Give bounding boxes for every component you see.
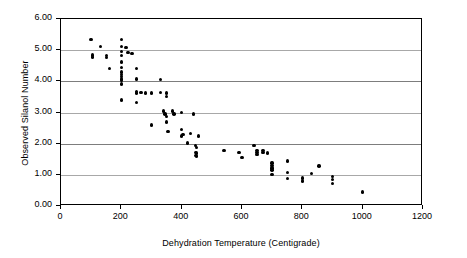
data-point [301,179,304,182]
x-tickmark-600 [241,205,242,209]
y-tick-label-5.00: 5.00 [8,43,52,53]
data-point [135,101,138,104]
x-tick-label-1200: 1200 [397,211,447,221]
data-point [261,151,264,154]
data-point [105,56,108,59]
gridline-y-1 [61,175,421,176]
data-point [180,111,183,114]
x-tick-label-400: 400 [156,211,206,221]
x-tickmark-800 [301,205,302,209]
data-point [222,149,225,152]
gridline-y-5 [61,50,421,51]
data-point [165,95,168,98]
data-point [286,159,289,162]
x-tick-label-800: 800 [276,211,326,221]
data-point [270,168,273,171]
data-point [159,91,162,94]
data-point [120,82,123,85]
data-point [270,173,273,176]
x-tickmark-1000 [362,205,363,209]
data-point [144,91,147,94]
y-tick-label-6.00: 6.00 [8,12,52,22]
gridline-y-3 [61,113,421,114]
data-point [126,51,129,54]
data-point [120,38,123,41]
data-point [135,67,138,70]
data-point [139,91,142,94]
data-point [120,98,123,101]
data-point [181,133,184,136]
data-point [120,50,123,53]
data-point [317,164,320,167]
data-point [89,38,92,41]
data-point [166,130,169,133]
data-point [192,112,195,115]
data-point [120,66,123,69]
data-point [150,91,153,94]
data-point [252,144,255,147]
y-tick-label-4.00: 4.00 [8,74,52,84]
y-tick-label-3.00: 3.00 [8,106,52,116]
data-point [195,154,198,157]
data-point [189,132,192,135]
y-tick-label-2.00: 2.00 [8,137,52,147]
scatter-chart-figure: Observed Silanol Number Dehydration Temp… [0,0,467,258]
data-point [124,46,127,49]
gridline-y-4 [61,81,421,82]
data-point [165,115,168,118]
data-point [266,151,269,154]
x-tick-label-0: 0 [35,211,85,221]
data-point [120,60,123,63]
y-tick-label-1.00: 1.00 [8,168,52,178]
data-point [172,112,175,115]
data-point [331,182,334,185]
y-tick-label-0.00: 0.00 [8,199,52,209]
x-tick-label-200: 200 [95,211,145,221]
data-point [135,91,138,94]
data-point [108,67,111,70]
x-tickmark-0 [60,205,61,209]
x-axis-title: Dehydration Temperature (Centigrade) [60,238,422,248]
data-point [165,120,168,123]
data-point [286,177,289,180]
x-tickmark-200 [120,205,121,209]
data-point [240,156,243,159]
data-point [99,45,102,48]
data-point [195,146,198,149]
gridline-y-2 [61,144,421,145]
x-tickmark-400 [181,205,182,209]
x-tickmark-1200 [422,205,423,209]
data-point [120,54,123,57]
data-point [130,52,133,55]
data-point [255,153,258,156]
data-point [197,134,200,137]
data-point [310,172,313,175]
x-tick-label-600: 600 [216,211,266,221]
data-point [150,123,153,126]
data-point [237,151,240,154]
data-point [361,190,364,193]
plot-area [60,18,422,205]
x-tick-label-1000: 1000 [337,211,387,221]
data-point [120,45,123,48]
data-point [286,171,289,174]
data-point [331,178,334,181]
data-point [180,128,183,131]
data-point [91,55,94,58]
data-point [135,77,138,80]
